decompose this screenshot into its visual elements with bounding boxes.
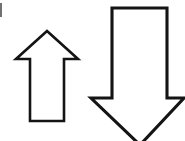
arrow-illustration-canvas: Up arrow Down arrow Two outlined arrows <box>0 0 185 141</box>
arrows-svg <box>0 0 185 141</box>
scan-edge-artifact-icon <box>0 3 2 17</box>
